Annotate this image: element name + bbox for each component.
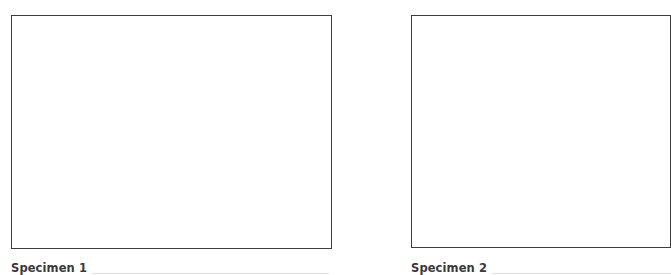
specimen-1-write-line bbox=[92, 273, 329, 274]
specimen-1-label-row: Specimen 1 bbox=[11, 259, 329, 275]
specimen-1-drawing-box bbox=[11, 15, 332, 249]
specimen-2-label-row: Specimen 2 bbox=[411, 259, 671, 275]
specimen-2-label: Specimen 2 bbox=[411, 261, 487, 275]
specimen-1-label: Specimen 1 bbox=[11, 261, 87, 275]
specimen-2-write-line bbox=[492, 273, 671, 274]
specimen-2-drawing-box bbox=[411, 15, 671, 248]
